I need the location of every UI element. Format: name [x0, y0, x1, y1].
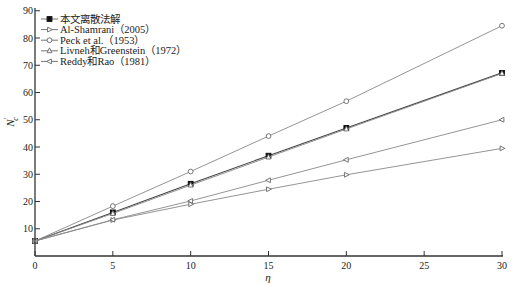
series-1 [33, 146, 505, 243]
legend-label: Peck et al.（1953） [60, 35, 144, 46]
series-line [35, 148, 502, 241]
x-axis-label: η [265, 271, 270, 283]
series-3 [33, 71, 505, 243]
x-tick-label: 20 [341, 260, 351, 271]
x-tick-label: 5 [110, 260, 115, 271]
x-tick-label: 15 [264, 260, 274, 271]
legend-label: Al-Shamrani（2005） [60, 24, 155, 35]
y-tick-label: 90 [23, 5, 33, 16]
triangle-right-marker [267, 187, 272, 192]
y-tick-label: 60 [23, 87, 33, 98]
legend-label: 本文离散法解 [60, 13, 121, 25]
circle-marker [47, 38, 52, 43]
x-tick-label: 30 [497, 260, 507, 271]
circle-marker [266, 134, 271, 139]
x-ticks: 051015202530 [33, 251, 508, 271]
y-tick-label: 70 [23, 60, 33, 71]
triangle-left-marker [47, 59, 52, 64]
y-tick-label: 50 [23, 114, 33, 125]
triangle-right-marker [500, 146, 505, 151]
triangle-left-marker [499, 117, 504, 122]
x-tick-label: 0 [33, 260, 38, 271]
square-marker [47, 17, 52, 22]
y-tick-label: 80 [23, 33, 33, 44]
legend-item: Al-Shamrani（2005） [41, 24, 155, 35]
legend-item: 本文离散法解 [41, 13, 121, 25]
legend-label: Reddy和Rao（1981） [60, 56, 155, 67]
y-tick-label: 10 [23, 223, 33, 234]
x-tick-label: 25 [419, 260, 429, 271]
legend-item: Peck et al.（1953） [41, 35, 144, 46]
y-tick-label: 20 [23, 196, 33, 207]
legend: 本文离散法解Al-Shamrani（2005）Peck et al.（1953）… [41, 13, 186, 67]
triangle-up-marker [47, 48, 52, 53]
y-tick-label: 30 [23, 169, 33, 180]
svg-text:N′c: N′c [3, 117, 20, 128]
chart: 051015202530 102030405060708090 η N′c 本文… [0, 0, 514, 286]
legend-item: Reddy和Rao（1981） [41, 56, 155, 67]
circle-marker [188, 169, 193, 174]
y-axis-label-sub: c [11, 117, 20, 121]
y-axis-label: N′c [3, 117, 20, 128]
y-ticks: 102030405060708090 [23, 5, 40, 234]
legend-item: Livneh和Greenstein（1972） [41, 45, 186, 56]
x-tick-label: 10 [186, 260, 196, 271]
y-tick-label: 40 [23, 142, 33, 153]
triangle-left-marker [343, 157, 348, 162]
triangle-right-marker [344, 172, 349, 177]
legend-label: Livneh和Greenstein（1972） [60, 45, 186, 56]
triangle-left-marker [266, 178, 271, 183]
circle-marker [344, 99, 349, 104]
circle-marker [110, 204, 115, 209]
circle-marker [500, 23, 505, 28]
triangle-right-marker [48, 27, 53, 32]
